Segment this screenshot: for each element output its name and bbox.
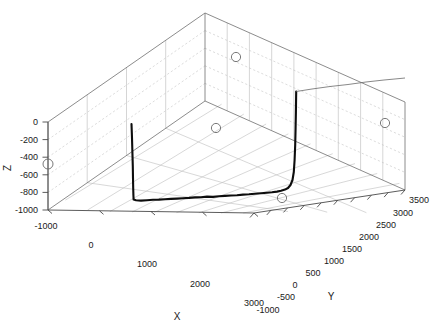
- z-axis-label: Z: [2, 165, 13, 171]
- y-tick-6: 2000: [359, 232, 379, 242]
- z-tick-2: -400: [20, 152, 38, 162]
- y-tick-2: 0: [292, 280, 297, 290]
- x-tick-0: -1000: [34, 221, 57, 231]
- y-tick-0: -1000: [256, 305, 279, 315]
- y-tick-4: 1000: [324, 256, 344, 266]
- y-tick-5: 1500: [342, 244, 362, 254]
- x-tick-3: 2000: [190, 279, 210, 289]
- y-tick-7: 2500: [376, 220, 396, 230]
- x-axis-label: X: [174, 311, 181, 322]
- z-tick-1: -200: [20, 135, 38, 145]
- y-tick-8: 3000: [393, 208, 413, 218]
- y-axis-label: Y: [328, 291, 335, 302]
- y-tick-9: 3500: [409, 195, 429, 205]
- axis-z[interactable]: 0 -200 -400 -600 -800 -1000 Z: [2, 117, 48, 215]
- y-tick-3: 500: [305, 268, 320, 278]
- y-tick-1: -500: [277, 292, 295, 302]
- z-tick-5: -1000: [15, 205, 38, 215]
- axis-x[interactable]: -1000 0 1000 2000 3000 X: [34, 210, 264, 322]
- plot-3d-axes[interactable]: 0 -200 -400 -600 -800 -1000 Z -1000 0 10…: [0, 0, 440, 331]
- z-tick-0: 0: [33, 117, 38, 127]
- x-tick-2: 1000: [137, 259, 157, 269]
- z-tick-4: -800: [20, 187, 38, 197]
- x-tick-1: 0: [88, 240, 93, 250]
- figure-container: 0 -200 -400 -600 -800 -1000 Z -1000 0 10…: [0, 0, 440, 331]
- z-tick-3: -600: [20, 170, 38, 180]
